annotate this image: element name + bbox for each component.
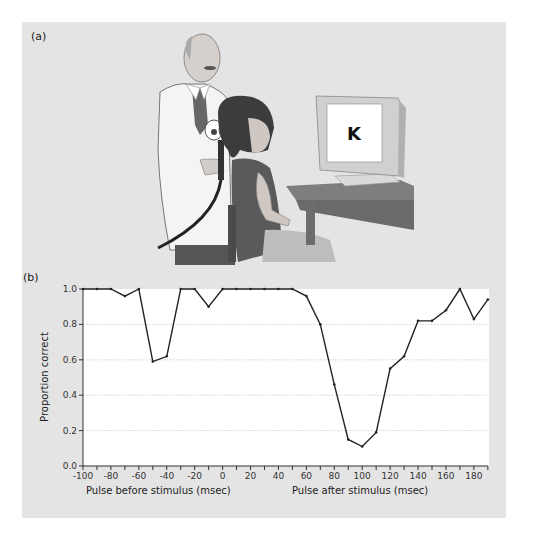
x-tick-label: -60 xyxy=(131,471,146,481)
data-point xyxy=(417,320,420,323)
data-point xyxy=(291,288,294,291)
x-tick-label: 120 xyxy=(382,471,399,481)
data-point xyxy=(207,305,210,308)
y-axis-title: Proportion correct xyxy=(39,332,50,422)
data-point xyxy=(319,323,322,326)
data-point xyxy=(138,288,141,291)
data-point xyxy=(487,298,490,301)
data-point xyxy=(263,288,266,291)
data-point xyxy=(459,288,462,291)
x-tick-label: -80 xyxy=(104,471,119,481)
y-tick-label: 0.8 xyxy=(63,319,78,329)
data-point xyxy=(375,431,378,434)
data-point xyxy=(179,288,182,291)
data-point xyxy=(249,288,252,291)
data-point xyxy=(333,383,336,386)
data-point xyxy=(152,360,155,363)
y-tick-label: 0.2 xyxy=(63,426,77,436)
x-axis-ticks: -100-80-60-40-20020406080100120140160180 xyxy=(73,466,488,481)
data-point xyxy=(221,288,224,291)
y-tick-label: 0.4 xyxy=(63,390,78,400)
data-point xyxy=(96,288,99,291)
data-point xyxy=(473,318,476,321)
y-axis-ticks: 0.00.20.40.60.81.0 xyxy=(63,284,83,471)
x-tick-label: 0 xyxy=(220,471,226,481)
y-tick-label: 0.6 xyxy=(63,355,78,365)
x-tick-label: 100 xyxy=(354,471,371,481)
data-point xyxy=(165,355,168,358)
data-point xyxy=(193,288,196,291)
data-point xyxy=(431,320,434,323)
x-tick-label: 180 xyxy=(465,471,482,481)
data-point xyxy=(361,445,364,448)
data-point xyxy=(235,288,238,291)
data-point xyxy=(305,295,308,298)
x-tick-label: 20 xyxy=(245,471,257,481)
y-tick-label: 1.0 xyxy=(63,284,78,294)
x-tick-label: 60 xyxy=(301,471,313,481)
data-point xyxy=(403,355,406,358)
y-tick-label: 0.0 xyxy=(63,461,78,471)
x-tick-label: 160 xyxy=(437,471,454,481)
data-point xyxy=(82,288,85,291)
data-point xyxy=(389,367,392,370)
x-tick-label: -40 xyxy=(159,471,174,481)
edge-artifact xyxy=(528,180,542,420)
data-point xyxy=(347,438,350,441)
x-axis-title-before: Pulse before stimulus (msec) xyxy=(86,485,231,496)
x-tick-label: -20 xyxy=(187,471,202,481)
data-point xyxy=(124,295,127,298)
x-tick-label: 80 xyxy=(329,471,341,481)
x-tick-label: 140 xyxy=(409,471,426,481)
x-axis-title-after: Pulse after stimulus (msec) xyxy=(292,485,428,496)
x-tick-label: -100 xyxy=(73,471,94,481)
data-point xyxy=(445,309,448,312)
x-tick-label: 40 xyxy=(273,471,285,481)
data-point xyxy=(277,288,280,291)
data-point xyxy=(110,288,113,291)
proportion-correct-chart: 0.00.20.40.60.81.0 -100-80-60-40-2002040… xyxy=(0,0,542,540)
